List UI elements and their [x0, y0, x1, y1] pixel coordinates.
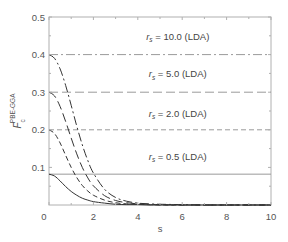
y-tick-label: 0.2 [32, 124, 45, 135]
x-tick-label: 0 [41, 211, 46, 222]
y-tick-label: 0.3 [32, 87, 45, 98]
reference-label: rs = 10.0 (LDA) [146, 31, 209, 44]
y-tick-label: 0.4 [32, 49, 45, 60]
x-tick-label: 2 [91, 211, 96, 222]
reference-label: rs = 2.0 (LDA) [149, 108, 207, 121]
y-tick-label: 0.1 [32, 162, 45, 173]
x-tick-label: 10 [266, 211, 277, 222]
reference-label: rs = 0.5 (LDA) [149, 151, 207, 164]
svg-text:FcPBE-GGA: FcPBE-GGA [9, 93, 26, 129]
x-tick-label: 4 [135, 211, 140, 222]
x-tick-label: 6 [180, 211, 185, 222]
y-tick-label: 0.5 [32, 12, 45, 23]
y-title-sup: PBE-GGA [9, 93, 16, 123]
x-tick-label: 8 [224, 211, 229, 222]
y-title-sub: c [19, 118, 26, 122]
y-axis-title: FcPBE-GGA [9, 93, 26, 129]
x-axis-ticks: 0246810 [41, 17, 276, 222]
series-line [49, 174, 271, 205]
annotations: rs = 10.0 (LDA)rs = 5.0 (LDA)rs = 2.0 (L… [146, 31, 209, 164]
reference-label: rs = 5.0 (LDA) [149, 68, 207, 81]
chart: 0246810 0.10.20.30.40.5 rs = 10.0 (LDA)r… [0, 0, 288, 242]
x-axis-title: s [158, 223, 163, 234]
